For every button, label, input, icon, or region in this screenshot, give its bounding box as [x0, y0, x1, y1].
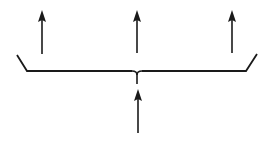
output-arrow-left [38, 10, 46, 54]
input-arrow [134, 89, 142, 133]
distribution-brace [17, 54, 257, 84]
distribution-diagram [0, 0, 271, 141]
output-arrow-center [133, 10, 141, 53]
output-arrow-right [228, 10, 236, 53]
